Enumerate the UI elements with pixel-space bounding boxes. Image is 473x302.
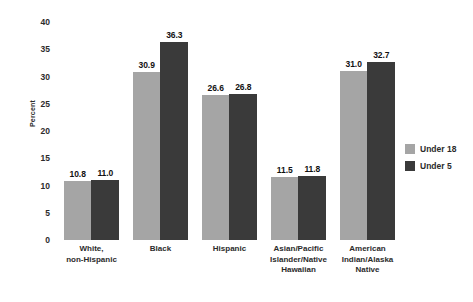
x-axis-category-label: AmericanIndian/AlaskaNative (333, 244, 402, 276)
x-axis-category-label: Asian/PacificIslander/NativeHawaiian (264, 244, 333, 276)
bar-value-label: 11.8 (304, 164, 320, 174)
y-axis-tick-label: 35 (26, 44, 50, 54)
bar-chart: Percent 4035302520151050 10.811.030.936.… (0, 0, 473, 302)
y-axis-tick-label: 0 (26, 235, 50, 245)
bar: 11.5 (271, 177, 299, 240)
bar-pair: 11.511.8 (271, 22, 326, 240)
legend-swatch-icon (405, 161, 415, 171)
legend-label: Under 5 (420, 161, 452, 171)
y-axis-tick-label: 40 (26, 17, 50, 27)
bar: 26.8 (229, 94, 257, 240)
legend-label: Under 18 (420, 144, 456, 154)
y-axis-tick-label: 5 (26, 208, 50, 218)
legend-item[interactable]: Under 18 (405, 143, 473, 154)
bar: 10.8 (64, 181, 92, 240)
bar-group: 26.626.8 (202, 22, 257, 240)
legend-swatch-icon (405, 144, 415, 154)
category-label-line: White, (57, 244, 126, 255)
y-axis-tick-label: 20 (26, 126, 50, 136)
y-axis-tick-label: 15 (26, 153, 50, 163)
chart-legend: Under 18Under 5 (405, 143, 473, 177)
bar-pair: 30.936.3 (133, 22, 188, 240)
bar-value-label: 11.5 (277, 165, 293, 175)
bar-pair: 26.626.8 (202, 22, 257, 240)
bar-value-label: 36.3 (166, 30, 182, 40)
bar: 32.7 (367, 62, 395, 240)
category-label-line: Hawaiian (264, 265, 333, 276)
category-label-line: Indian/Alaska (333, 255, 402, 266)
bar: 11.0 (91, 180, 119, 240)
bar: 31.0 (340, 71, 368, 240)
bar-value-label: 11.0 (97, 168, 113, 178)
y-axis-tick-label: 10 (26, 181, 50, 191)
x-axis-category-labels: White,non-HispanicBlackHispanicAsian/Pac… (57, 244, 402, 300)
bar: 36.3 (160, 42, 188, 240)
bar-value-label: 26.6 (208, 83, 224, 93)
plot-area: 10.811.030.936.326.626.811.511.831.032.7 (57, 22, 402, 240)
bar-group: 31.032.7 (340, 22, 395, 240)
bar-group: 30.936.3 (133, 22, 188, 240)
category-label-line: Asian/Pacific (264, 244, 333, 255)
y-axis-tick-label: 30 (26, 72, 50, 82)
bar-value-label: 26.8 (235, 82, 251, 92)
bar-value-label: 30.9 (139, 60, 155, 70)
bar: 26.6 (202, 95, 230, 240)
y-axis-tick-label: 25 (26, 99, 50, 109)
bar-pair: 31.032.7 (340, 22, 395, 240)
category-label-line: Hispanic (195, 244, 264, 255)
bar-value-label: 31.0 (346, 59, 362, 69)
y-axis-tick-labels: 4035302520151050 (26, 0, 50, 302)
x-axis-category-label: Hispanic (195, 244, 264, 255)
bar-value-label: 32.7 (373, 50, 389, 60)
category-label-line: American (333, 244, 402, 255)
category-label-line: Black (126, 244, 195, 255)
category-label-line: Islander/Native (264, 255, 333, 266)
bar: 11.8 (298, 176, 326, 240)
x-axis-category-label: White,non-Hispanic (57, 244, 126, 265)
category-label-line: non-Hispanic (57, 255, 126, 266)
bar: 30.9 (133, 72, 161, 240)
bar-group: 10.811.0 (64, 22, 119, 240)
legend-item[interactable]: Under 5 (405, 160, 473, 171)
bar-group: 11.511.8 (271, 22, 326, 240)
category-label-line: Native (333, 265, 402, 276)
bar-value-label: 10.8 (70, 169, 86, 179)
bar-pair: 10.811.0 (64, 22, 119, 240)
x-axis-category-label: Black (126, 244, 195, 255)
